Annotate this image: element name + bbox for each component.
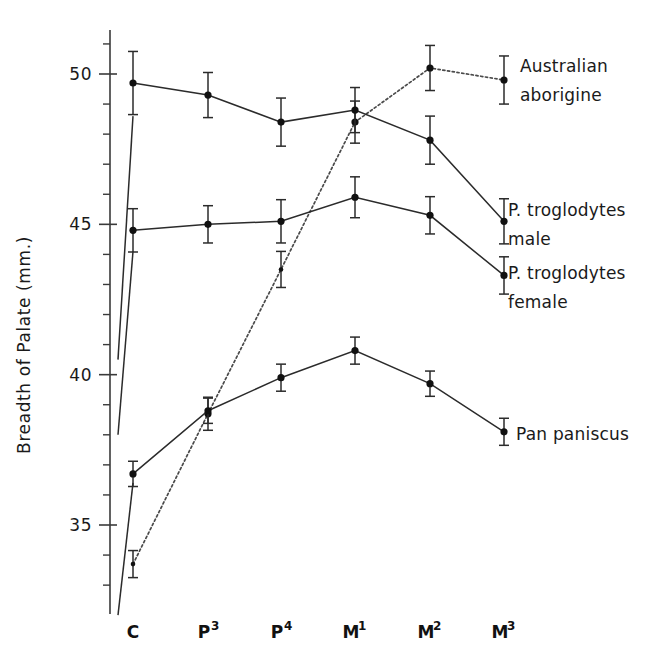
x-tick-label-m3: M3 (492, 619, 516, 642)
left-stub-lines (118, 116, 133, 615)
legend-label-line: P. troglodytes (508, 263, 626, 283)
legend-p-troglodytes-female: P. troglodytesfemale (508, 263, 626, 312)
stub-pan-paniscus (118, 483, 133, 615)
data-point-m1 (350, 177, 360, 218)
y-tick-label: 35 (69, 515, 92, 535)
data-point-marker (129, 470, 136, 477)
x-tick-label-p4: P4 (271, 619, 293, 642)
series-line (133, 68, 504, 564)
legend-label-line: aborigine (520, 85, 602, 105)
data-point-m1 (350, 88, 360, 133)
data-point-marker (204, 91, 211, 98)
legend-label-line: Australian (520, 56, 608, 76)
series-line (133, 351, 504, 474)
legend-label-line: male (508, 229, 551, 249)
data-point-c (128, 461, 138, 486)
x-tick-label-c: C (127, 622, 139, 642)
data-point-m3 (499, 418, 509, 445)
legend-australian-aborigine: Australianaborigine (520, 56, 608, 105)
data-point-c (128, 51, 138, 114)
legend-label-line: female (508, 292, 568, 312)
data-point-marker (426, 137, 433, 144)
y-axis (99, 30, 117, 614)
data-point-marker (129, 79, 136, 86)
x-tick-label-p3: P3 (198, 619, 220, 642)
x-tick-label-m2: M2 (418, 619, 442, 642)
data-point-m2 (425, 371, 435, 396)
data-point-marker (351, 347, 358, 354)
data-point-marker (277, 119, 284, 126)
data-point-c (128, 551, 138, 578)
y-axis-title: Breadth of Palate (mm.) (14, 236, 34, 454)
x-tick-base: M (343, 622, 360, 642)
x-axis-tick-labels: CP3P4M1M2M3 (127, 619, 516, 642)
stub-troglodytes-female (118, 251, 133, 434)
x-tick-base: P (271, 622, 283, 642)
y-tick-label: 50 (69, 64, 92, 84)
data-point-marker (204, 221, 211, 228)
data-point-marker (131, 562, 136, 567)
x-tick-superscript: 3 (507, 619, 515, 633)
x-tick-label-m1: M1 (343, 619, 367, 642)
series-p-troglodytes-male (128, 51, 509, 243)
data-point-m2 (425, 45, 435, 90)
x-tick-superscript: 1 (358, 619, 366, 633)
x-tick-base: C (127, 622, 139, 642)
data-point-marker (351, 106, 358, 113)
data-point-marker (277, 374, 284, 381)
data-point-p4 (276, 200, 286, 243)
data-point-marker (500, 218, 507, 225)
series-pan-paniscus (128, 337, 509, 486)
data-point-marker (279, 267, 284, 272)
data-point-marker (500, 76, 507, 83)
data-point-marker (277, 218, 284, 225)
x-tick-superscript: 3 (211, 619, 219, 633)
data-point-m2 (425, 116, 435, 164)
legend-label-line: P. troglodytes (508, 200, 626, 220)
x-tick-superscript: 4 (284, 619, 292, 633)
data-point-p4 (276, 364, 286, 391)
y-axis-tick-labels: 35404550 (69, 64, 92, 535)
data-point-m2 (425, 197, 435, 234)
data-series-group (128, 45, 509, 577)
legend-pan-paniscus: Pan paniscus (516, 424, 629, 444)
x-tick-superscript: 2 (433, 619, 441, 633)
x-tick-base: P (198, 622, 210, 642)
data-point-marker (426, 64, 433, 71)
series-line (133, 83, 504, 221)
x-tick-base: M (418, 622, 435, 642)
y-tick-label: 40 (69, 365, 92, 385)
data-point-marker (426, 212, 433, 219)
data-point-m3 (499, 56, 509, 104)
legend-p-troglodytes-male: P. troglodytesmale (508, 200, 626, 249)
stub-troglodytes-male (118, 116, 133, 360)
legend-group: AustralianaborigineP. troglodytesmaleP. … (508, 56, 629, 444)
data-point-marker (351, 194, 358, 201)
data-point-m1 (350, 337, 360, 364)
palate-breadth-line-chart: Breadth of Palate (mm.) 35404550 CP3P4M1… (0, 0, 669, 664)
series-line (133, 197, 504, 275)
data-point-p3 (203, 72, 213, 117)
data-point-p4 (276, 98, 286, 146)
data-point-marker (426, 380, 433, 387)
y-tick-label: 45 (69, 214, 92, 234)
data-point-marker (500, 428, 507, 435)
legend-label-line: Pan paniscus (516, 424, 629, 444)
series-australian-aborigine (128, 45, 509, 577)
data-point-p3 (203, 206, 213, 243)
chart-figure: Breadth of Palate (mm.) 35404550 CP3P4M1… (0, 0, 669, 664)
data-point-p4 (276, 251, 286, 287)
x-tick-base: M (492, 622, 509, 642)
data-point-marker (129, 227, 136, 234)
data-point-c (128, 209, 138, 252)
data-point-marker (204, 407, 211, 414)
data-point-marker (500, 272, 507, 279)
